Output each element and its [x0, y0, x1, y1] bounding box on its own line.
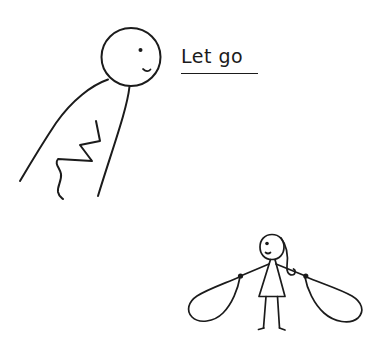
lower-figure-right-foot [280, 328, 286, 330]
upper-figure [20, 28, 161, 199]
lower-figure-right-leg [278, 297, 280, 329]
rope-loops [189, 277, 362, 322]
lower-figure [238, 235, 309, 331]
rope-loop-left [189, 277, 241, 322]
lower-figure-mouth [266, 253, 271, 254]
upper-figure-mouth [143, 69, 151, 71]
upper-figure-front-curve [98, 87, 130, 197]
lower-figure-eye-icon [265, 242, 269, 246]
caption-text: Let go [181, 47, 243, 66]
lower-figure-left-leg [264, 297, 267, 329]
upper-figure-head [102, 28, 161, 86]
caption-underline [181, 73, 258, 74]
lower-figure-dress [259, 260, 285, 297]
upper-figure-back-curve [20, 80, 108, 182]
rope-loop-right [305, 277, 362, 322]
drawing-canvas: Let go [0, 0, 377, 341]
lower-figure-left-foot [259, 328, 265, 330]
upper-figure-eye-icon [139, 48, 143, 52]
upper-figure-zigzag-arm [57, 121, 100, 199]
lower-figure-left-arm [241, 264, 270, 276]
